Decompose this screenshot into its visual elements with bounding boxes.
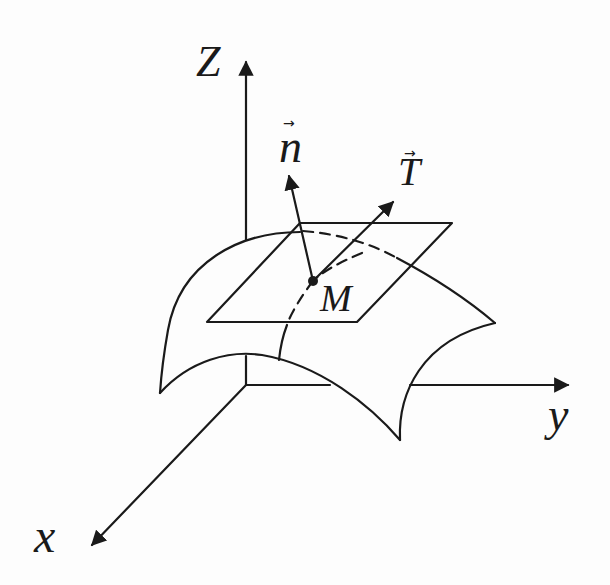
curved-surface: [160, 231, 495, 440]
x-axis: [92, 385, 246, 545]
point-m-dot: [308, 276, 318, 286]
diagram-drawing: [0, 0, 610, 585]
normal-vector-label: n: [279, 124, 302, 170]
x-axis-label: x: [34, 512, 55, 560]
normal-vector: [289, 176, 313, 281]
tangent-vector-label: T: [398, 152, 420, 192]
tangent-vector: [313, 202, 393, 281]
surface-tangent-plane-diagram: Z y x → n → T M: [0, 0, 610, 585]
z-axis-label: Z: [196, 40, 220, 84]
point-m-label: M: [320, 279, 352, 317]
y-axis-label: y: [548, 392, 568, 438]
